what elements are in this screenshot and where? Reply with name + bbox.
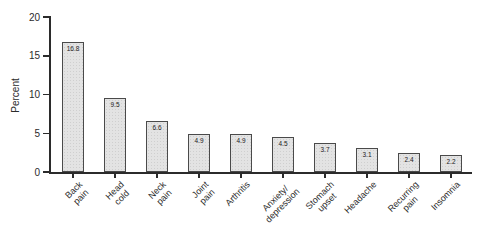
- x-axis-tick: [240, 173, 242, 178]
- bar: 4.5: [272, 137, 294, 172]
- bar: 4.9: [188, 134, 210, 172]
- x-axis-tick: [324, 173, 326, 178]
- bar-value-label: 4.5: [273, 140, 293, 147]
- bar-value-label: 2.4: [399, 156, 419, 163]
- y-axis-tick: [43, 133, 49, 135]
- y-axis-line: [49, 16, 51, 173]
- bar-value-label: 9.5: [105, 101, 125, 108]
- bar-value-label: 6.6: [147, 124, 167, 131]
- y-tick-label: 15: [18, 50, 40, 61]
- y-tick-label: 20: [18, 12, 40, 23]
- x-axis-tick: [114, 173, 116, 178]
- y-tick-label: 0: [18, 167, 40, 178]
- bar-value-label: 4.9: [231, 137, 251, 144]
- x-axis-tick: [198, 173, 200, 178]
- x-axis-tick: [282, 173, 284, 178]
- bar-value-label: 3.1: [357, 151, 377, 158]
- x-axis-label: Joint pain: [191, 180, 218, 207]
- x-axis-label: Neck pain: [147, 180, 175, 208]
- bar: 4.9: [230, 134, 252, 172]
- y-axis-tick: [43, 171, 49, 173]
- y-axis-tick: [43, 94, 49, 96]
- x-axis-label: Head cold: [105, 180, 134, 209]
- x-axis-tick: [450, 173, 452, 178]
- y-tick-label: 10: [18, 89, 40, 100]
- bar: 3.1: [356, 148, 378, 172]
- x-axis-label: Headache: [343, 180, 379, 216]
- bar: 2.4: [398, 153, 420, 172]
- x-axis-tick: [366, 173, 368, 178]
- bar-value-label: 16.8: [63, 45, 83, 52]
- bar: 6.6: [146, 121, 168, 172]
- x-axis-label: Insomnia: [430, 180, 463, 213]
- x-axis-label: Recurring pain: [386, 180, 427, 221]
- bar-value-label: 3.7: [315, 146, 335, 153]
- bar-value-label: 4.9: [189, 137, 209, 144]
- bar-chart: Percent 0510152016.8Back pain9.5Head col…: [0, 0, 478, 246]
- x-axis-label: Anxiety/ depression: [257, 180, 302, 225]
- bar-value-label: 2.2: [441, 158, 461, 165]
- x-axis-tick: [72, 173, 74, 178]
- x-axis-label: Arthritis: [224, 180, 252, 208]
- bar: 2.2: [440, 155, 462, 172]
- bar: 16.8: [62, 42, 84, 172]
- x-axis-tick: [408, 173, 410, 178]
- y-axis-tick: [43, 16, 49, 18]
- x-axis-label: Stomach upset: [305, 180, 344, 219]
- y-axis-tick: [43, 55, 49, 57]
- x-axis-tick: [156, 173, 158, 178]
- x-axis-label: Back pain: [64, 180, 92, 208]
- y-tick-label: 5: [18, 128, 40, 139]
- bar: 9.5: [104, 98, 126, 172]
- bar: 3.7: [314, 143, 336, 172]
